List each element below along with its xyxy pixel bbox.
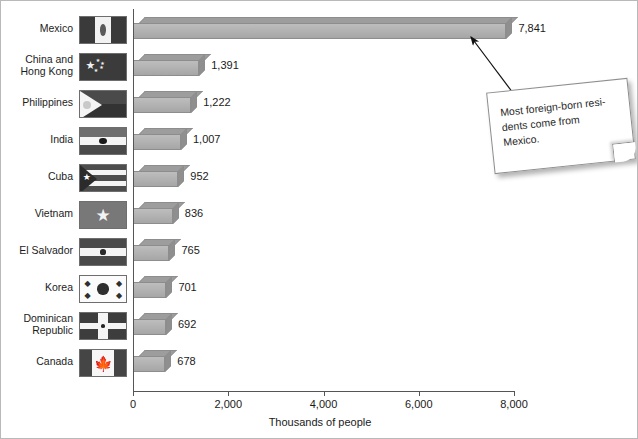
- x-tick-label: 6,000: [405, 398, 433, 410]
- category-label: China and Hong Kong: [1, 54, 73, 77]
- category-label: Korea: [1, 282, 73, 294]
- category-label: Cuba: [1, 171, 73, 183]
- bar-side-face: [166, 313, 172, 335]
- bar-value-label: 836: [185, 207, 203, 219]
- category-label: Dominican Republic: [1, 313, 73, 336]
- flag-el-salvador-icon: [79, 238, 127, 266]
- x-tick-label: 0: [130, 398, 136, 410]
- bar-row: Vietnam ★836: [1, 200, 638, 230]
- bar: [133, 165, 184, 187]
- flag-china-icon: ★ ★ ★ ★ ★: [79, 53, 127, 81]
- y-axis-line: [133, 9, 134, 391]
- bar-front-face: [133, 134, 181, 150]
- x-tick-mark: [419, 391, 420, 396]
- bar: [133, 17, 512, 39]
- bar-value-label: 1,007: [193, 133, 221, 145]
- bar-row: El Salvador 765: [1, 237, 638, 267]
- bar-front-face: [133, 97, 191, 113]
- bar-value-label: 701: [178, 281, 196, 293]
- bar-side-face: [181, 128, 187, 150]
- flag-cuba-icon: ★: [79, 164, 127, 192]
- bar: [133, 128, 187, 150]
- bar: [133, 239, 175, 261]
- x-axis-title: Thousands of people: [1, 416, 638, 428]
- bar-value-label: 692: [178, 318, 196, 330]
- callout-note: Most foreign-born resi- dents come from …: [486, 78, 636, 174]
- bar-side-face: [178, 165, 184, 187]
- bar-side-face: [199, 54, 205, 76]
- bar-side-face: [191, 91, 197, 113]
- flag-mexico-icon: [79, 16, 127, 44]
- bar-side-face: [506, 17, 512, 39]
- x-tick-label: 2,000: [214, 398, 242, 410]
- bar-side-face: [165, 350, 171, 372]
- flag-korea-icon: ◆ ◆ ◆ ◆: [79, 275, 127, 303]
- bar: [133, 350, 171, 372]
- bar-value-label: 1,222: [203, 96, 231, 108]
- flag-philippines-icon: [79, 90, 127, 118]
- bar: [133, 202, 179, 224]
- bar-value-label: 1,391: [211, 59, 239, 71]
- x-tick-label: 8,000: [500, 398, 528, 410]
- bar-front-face: [133, 282, 166, 298]
- x-tick-mark: [133, 391, 134, 396]
- category-label: Philippines: [1, 97, 73, 109]
- flag-vietnam-icon: ★: [79, 201, 127, 229]
- category-label: Canada: [1, 356, 73, 368]
- category-label: El Salvador: [1, 245, 73, 257]
- flag-india-icon: [79, 127, 127, 155]
- bar-front-face: [133, 23, 506, 39]
- bar-front-face: [133, 171, 178, 187]
- bar-front-face: [133, 245, 169, 261]
- bar-value-label: 7,841: [518, 22, 546, 34]
- bar-front-face: [133, 319, 166, 335]
- bar-row: Korea ◆ ◆ ◆ ◆701: [1, 274, 638, 304]
- category-label: Vietnam: [1, 208, 73, 220]
- bar: [133, 91, 197, 113]
- bar-side-face: [166, 276, 172, 298]
- bar: [133, 313, 172, 335]
- x-tick-mark: [514, 391, 515, 396]
- bar-value-label: 765: [181, 244, 199, 256]
- bar-front-face: [133, 356, 165, 372]
- bar-row: Dominican Republic 692: [1, 311, 638, 341]
- flag-dominican-republic-icon: [79, 312, 127, 340]
- x-tick-label: 4,000: [310, 398, 338, 410]
- category-label: Mexico: [1, 23, 73, 35]
- x-tick-mark: [324, 391, 325, 396]
- bar-front-face: [133, 208, 173, 224]
- bar-value-label: 678: [177, 355, 195, 367]
- bar: [133, 54, 205, 76]
- chart-figure: Mexico 7,841China and Hong Kong ★ ★ ★ ★ …: [0, 0, 638, 439]
- x-tick-mark: [228, 391, 229, 396]
- bar-row: Canada 🍁678: [1, 348, 638, 378]
- bar: [133, 276, 172, 298]
- bar-row: China and Hong Kong ★ ★ ★ ★ ★1,391: [1, 52, 638, 82]
- flag-canada-icon: 🍁: [79, 349, 127, 377]
- bar-front-face: [133, 60, 199, 76]
- bar-value-label: 952: [190, 170, 208, 182]
- bar-row: Mexico 7,841: [1, 15, 638, 45]
- category-label: India: [1, 134, 73, 146]
- bar-side-face: [169, 239, 175, 261]
